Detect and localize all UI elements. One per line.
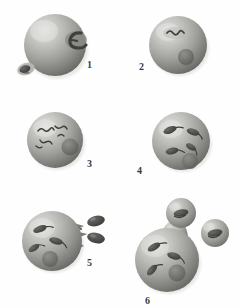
stage-label-5: 5 bbox=[87, 258, 92, 268]
stage-label-4: 4 bbox=[137, 166, 142, 176]
panel-1-group bbox=[16, 14, 88, 79]
panel-4-host-cell bbox=[152, 112, 210, 170]
panel-2-nucleus bbox=[178, 49, 194, 65]
panel-5-released-body-upper bbox=[83, 212, 109, 230]
panel-2-group bbox=[149, 16, 209, 76]
panel-6-detached-daughter-cell bbox=[201, 219, 229, 247]
panel-6-group bbox=[135, 198, 229, 294]
panel-1-c-shaped-body bbox=[65, 31, 87, 49]
panel-4-nucleus bbox=[182, 153, 198, 169]
panel-4-group bbox=[152, 112, 212, 172]
stage-label-6: 6 bbox=[145, 296, 150, 306]
stage-label-2: 2 bbox=[139, 62, 144, 72]
stage-label-3: 3 bbox=[87, 159, 92, 169]
panel-5-released-body-lower bbox=[83, 229, 109, 247]
panel-6-mother-cell bbox=[135, 228, 199, 292]
panel-2-wavy-thread bbox=[163, 27, 189, 39]
panel-3-group bbox=[27, 112, 85, 170]
panel-2-host-cell bbox=[149, 16, 207, 74]
panel-5-nucleus bbox=[42, 251, 58, 267]
panel-3-nucleus bbox=[62, 139, 79, 156]
life-cycle-illustration bbox=[0, 0, 241, 308]
panel-6-nucleus bbox=[169, 265, 186, 282]
stage-label-1: 1 bbox=[87, 60, 92, 70]
figure-canvas: 1 2 3 4 5 6 Stages of intracellular para… bbox=[0, 0, 241, 308]
panel-1-specular-highlight bbox=[30, 20, 58, 42]
panel-6-bud-daughter-cell bbox=[166, 198, 196, 228]
panel-5-group bbox=[22, 211, 109, 273]
